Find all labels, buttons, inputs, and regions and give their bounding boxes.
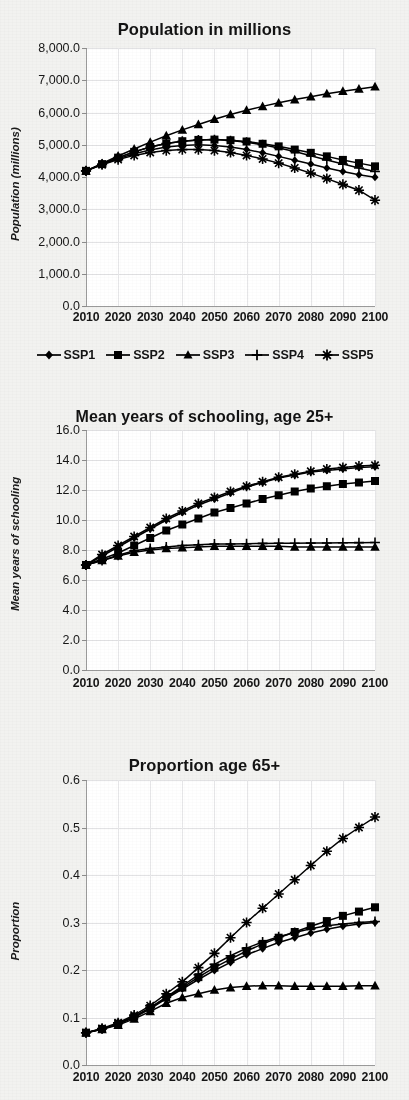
y-tick-mark [82, 640, 87, 641]
series-layer [86, 48, 375, 306]
y-tick-mark [82, 242, 87, 243]
x-tick-label: 2030 [134, 676, 166, 690]
x-tick-label: 2070 [263, 310, 295, 324]
y-tick-mark [82, 145, 87, 146]
legend-item-label: SSP5 [342, 348, 374, 362]
legend-item-ssp2[interactable]: SSP2 [105, 348, 165, 362]
y-tick-mark [82, 80, 87, 81]
y-tick-label: 6,000.0 [8, 106, 80, 120]
x-tick-label: 2100 [359, 1070, 391, 1084]
y-tick-label: 2,000.0 [8, 235, 80, 249]
y-tick-label: 8,000.0 [8, 41, 80, 55]
y-tick-label: 6.0 [8, 573, 80, 587]
x-tick-label: 2010 [70, 310, 102, 324]
y-tick-label: 1,000.0 [8, 267, 80, 281]
y-tick-mark [82, 780, 87, 781]
y-tick-mark [82, 550, 87, 551]
x-tick-label: 2080 [295, 676, 327, 690]
legend-item-ssp5[interactable]: SSP5 [314, 348, 374, 362]
legend-item-ssp4[interactable]: SSP4 [244, 348, 304, 362]
legend-item-ssp3[interactable]: SSP3 [175, 348, 235, 362]
legend-item-label: SSP2 [133, 348, 165, 362]
y-tick-mark [82, 490, 87, 491]
y-tick-mark [82, 177, 87, 178]
series-line-SSP3 [86, 87, 375, 171]
gridline-horizontal [86, 670, 375, 671]
y-tick-mark [82, 113, 87, 114]
x-tick-label: 2100 [359, 310, 391, 324]
y-tick-mark [82, 48, 87, 49]
y-tick-label: 8.0 [8, 543, 80, 557]
y-tick-label: 16.0 [8, 423, 80, 437]
x-tick-label: 2090 [327, 676, 359, 690]
chart-legend: SSP1 SSP2 SSP3 SSP4 SSP5 [0, 348, 409, 362]
y-tick-mark [82, 580, 87, 581]
legend-item-ssp1[interactable]: SSP1 [36, 348, 96, 362]
x-tick-label: 2060 [230, 310, 262, 324]
series-layer [86, 780, 375, 1065]
y-tick-label: 4.0 [8, 603, 80, 617]
diamond-icon [36, 348, 62, 362]
y-tick-mark [82, 875, 87, 876]
x-tick-label: 2090 [327, 310, 359, 324]
x-tick-label: 2040 [166, 676, 198, 690]
x-tick-label: 2060 [230, 676, 262, 690]
x-tick-label: 2010 [70, 1070, 102, 1084]
plot-area-proportion [86, 780, 375, 1065]
y-tick-mark [82, 209, 87, 210]
y-tick-label: 7,000.0 [8, 73, 80, 87]
x-tick-label: 2070 [263, 1070, 295, 1084]
y-tick-mark [82, 923, 87, 924]
y-tick-label: 2.0 [8, 633, 80, 647]
legend-item-label: SSP3 [203, 348, 235, 362]
legend-item-label: SSP4 [272, 348, 304, 362]
gridline-horizontal [86, 306, 375, 307]
y-tick-mark [82, 274, 87, 275]
y-tick-label: 0.0 [8, 663, 80, 677]
x-tick-label: 2050 [198, 1070, 230, 1084]
triangle-icon [175, 348, 201, 362]
x-tick-label: 2040 [166, 1070, 198, 1084]
y-tick-mark [82, 610, 87, 611]
figure-page: Population in millions Population (milli… [0, 0, 409, 1100]
y-tick-label: 10.0 [8, 513, 80, 527]
x-tick-label: 2050 [198, 676, 230, 690]
y-tick-mark [82, 670, 87, 671]
y-tick-mark [82, 460, 87, 461]
series-layer [86, 430, 375, 670]
legend-item-label: SSP1 [64, 348, 96, 362]
chart-panel-proportion: Proportion age 65+ Proportion 0.00.10.20… [0, 720, 409, 1100]
x-tick-label: 2100 [359, 676, 391, 690]
x-tick-label: 2040 [166, 310, 198, 324]
y-tick-label: 0.6 [8, 773, 80, 787]
y-tick-label: 0.2 [8, 963, 80, 977]
asterisk-icon [314, 348, 340, 362]
gridline-horizontal [86, 1065, 375, 1066]
y-tick-mark [82, 970, 87, 971]
plot-area-population [86, 48, 375, 306]
y-tick-mark [82, 306, 87, 307]
plus-icon [244, 348, 270, 362]
x-tick-label: 2050 [198, 310, 230, 324]
x-tick-label: 2030 [134, 1070, 166, 1084]
x-tick-label: 2070 [263, 676, 295, 690]
x-tick-label: 2030 [134, 310, 166, 324]
x-tick-label: 2020 [102, 676, 134, 690]
y-tick-label: 0.1 [8, 1011, 80, 1025]
y-tick-mark [82, 1065, 87, 1066]
x-tick-label: 2060 [230, 1070, 262, 1084]
x-axis-ticks-population: 2010202020302040205020602070208020902100 [70, 310, 391, 324]
series-line-SSP3 [86, 986, 375, 1033]
y-tick-mark [82, 1018, 87, 1019]
y-tick-label: 0.3 [8, 916, 80, 930]
chart-panel-population: Population in millions Population (milli… [0, 0, 409, 380]
y-tick-label: 0.5 [8, 821, 80, 835]
x-tick-label: 2080 [295, 310, 327, 324]
y-tick-mark [82, 430, 87, 431]
x-tick-label: 2090 [327, 1070, 359, 1084]
x-tick-label: 2020 [102, 1070, 134, 1084]
y-tick-mark [82, 828, 87, 829]
y-tick-label: 4,000.0 [8, 170, 80, 184]
x-axis-ticks-schooling: 2010202020302040205020602070208020902100 [70, 676, 391, 690]
y-tick-label: 14.0 [8, 453, 80, 467]
